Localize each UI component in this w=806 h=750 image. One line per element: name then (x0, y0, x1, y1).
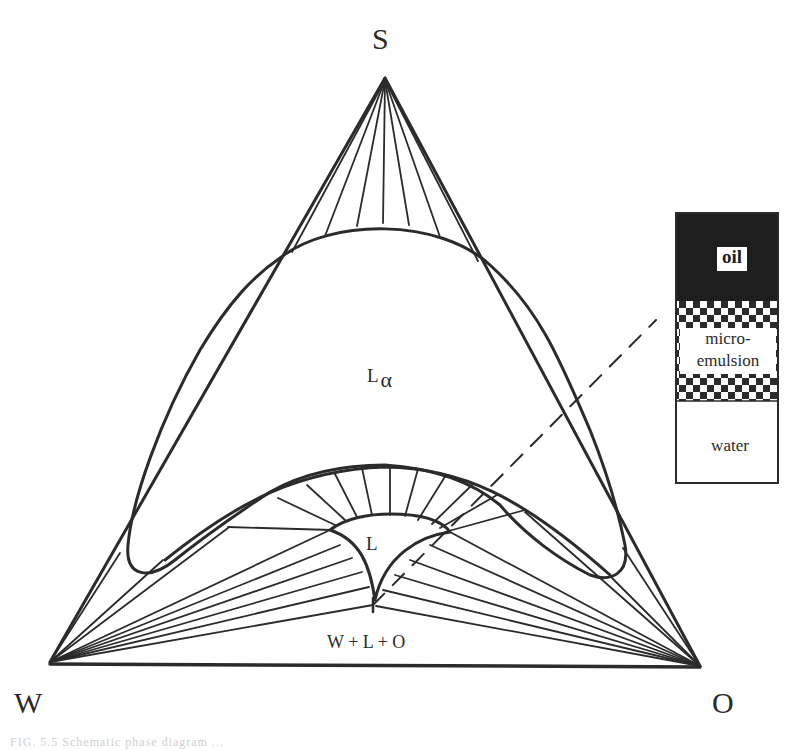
lamellar-subscript: α (381, 367, 393, 392)
lamellar-symbol: L (367, 365, 379, 386)
tie-lines-oil (376, 512, 700, 666)
tie-lines-top (292, 80, 478, 261)
vertex-label-oil: O (712, 686, 734, 720)
water-layer-label: water (690, 436, 770, 456)
region-label-lamellar: Lα (367, 362, 392, 388)
region-label-microemulsion: L (366, 533, 378, 555)
microemulsion-layer-label-line1: micro- (680, 329, 776, 349)
composition-dashed-line (373, 320, 656, 605)
lamellar-boundary (128, 229, 626, 578)
vertex-label-water: W (14, 686, 42, 720)
region-label-three-phase: W + L + O (327, 632, 405, 653)
microemulsion-layer-label-line2: emulsion (678, 351, 778, 371)
tie-lines-lens (228, 467, 525, 532)
tie-lines-water (50, 528, 373, 662)
lens-boundary (165, 467, 610, 575)
microemulsion-boundary (330, 514, 450, 600)
vertex-label-surfactant: S (372, 22, 389, 56)
oil-layer-label: oil (717, 246, 747, 268)
figure-caption: FIG. 5.5 Schematic phase diagram ... (10, 735, 224, 750)
